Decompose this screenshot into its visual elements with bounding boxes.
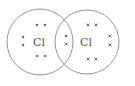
atom-symbol-right: Cl (80, 36, 92, 49)
shared-electron-pair (65, 35, 68, 46)
shared-dot (65, 35, 68, 38)
atom-right: Cl (55, 10, 119, 74)
shared-cross (65, 43, 68, 46)
cl2-dot-cross-diagram: Cl Cl (0, 0, 135, 86)
atom-left: Cl (7, 9, 73, 75)
atom-symbol-left: Cl (33, 36, 45, 49)
